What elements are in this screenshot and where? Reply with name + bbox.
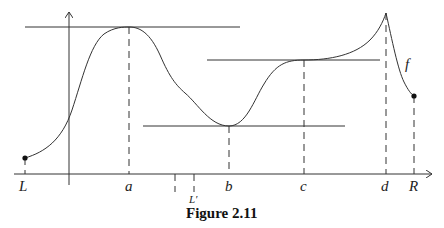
function-curve xyxy=(25,13,414,158)
x-label-a: a xyxy=(125,178,133,194)
x-label-R: R xyxy=(408,178,418,194)
figure-diagram: f L a L′ b c d R Figure 2.11 xyxy=(0,0,444,228)
x-label-d: d xyxy=(381,178,389,194)
figure-caption: Figure 2.11 xyxy=(186,205,257,221)
x-label-b: b xyxy=(225,178,233,194)
x-label-L-prime: L′ xyxy=(188,193,198,205)
x-label-c: c xyxy=(300,178,307,194)
endpoint-L xyxy=(22,155,27,160)
x-label-L: L xyxy=(18,178,27,194)
endpoint-R xyxy=(411,93,416,98)
function-label-f: f xyxy=(405,56,411,72)
